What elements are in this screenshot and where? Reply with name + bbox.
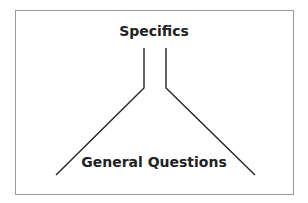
specifics-label: Specifics xyxy=(0,23,308,39)
general-questions-label: General Questions xyxy=(0,154,308,170)
